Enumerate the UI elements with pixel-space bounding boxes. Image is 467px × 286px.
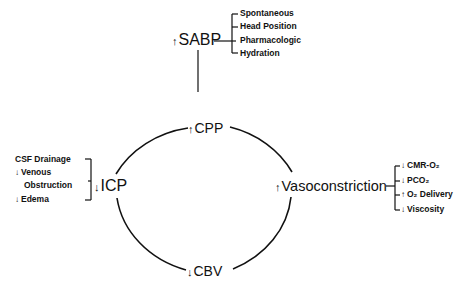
node-cpp: ↑CPP — [188, 121, 223, 135]
vaso-factor-label: CMR-O₂ — [407, 160, 440, 170]
sabp-factor: Pharmacologic — [240, 36, 301, 45]
icp-factor: Obstruction — [24, 181, 72, 190]
icp-label: ICP — [101, 177, 128, 194]
vaso-factor: ↓PCO₂ — [401, 176, 429, 185]
vaso-factor: ↑O₂ Delivery — [401, 190, 453, 199]
down-arrow-icon: ↓ — [94, 182, 100, 193]
vaso-factor-label: PCO₂ — [407, 175, 429, 185]
icp-factor-label: Venous — [21, 167, 51, 177]
node-vasoconstriction: ↑Vasoconstriction — [275, 179, 387, 194]
sabp-label: SABP — [179, 31, 222, 48]
up-arrow-icon: ↑ — [188, 124, 194, 135]
up-arrow-icon: ↑ — [172, 36, 178, 47]
cycle-diagram-lines — [0, 0, 467, 286]
cpp-label: CPP — [195, 120, 224, 136]
node-sabp: ↑SABP — [172, 32, 221, 48]
vaso-factor: ↓CMR-O₂ — [401, 161, 440, 170]
arc-icp-to-cpp — [116, 128, 188, 174]
down-arrow-icon: ↓ — [401, 205, 405, 214]
vaso-factor-label: O₂ Delivery — [407, 189, 453, 199]
sabp-factor: Head Position — [240, 22, 297, 31]
cbv-label: CBV — [194, 263, 223, 279]
vaso-factor: ↓Viscosity — [401, 205, 444, 214]
down-arrow-icon: ↓ — [401, 176, 405, 185]
icp-factor: ↓Venous — [15, 168, 51, 177]
icp-factor-label: CSF Drainage — [15, 154, 71, 164]
icp-factor: ↓Edema — [15, 195, 49, 204]
up-arrow-icon: ↑ — [275, 182, 281, 193]
down-arrow-icon: ↓ — [15, 168, 19, 177]
down-arrow-icon: ↓ — [401, 161, 405, 170]
icp-factor: CSF Drainage — [15, 155, 71, 164]
down-arrow-icon: ↓ — [15, 195, 19, 204]
up-arrow-icon: ↑ — [401, 190, 405, 199]
node-icp: ↓ICP — [94, 178, 127, 194]
arc-cpp-to-vaso — [230, 127, 292, 172]
arc-vaso-to-cbv — [233, 197, 291, 269]
node-cbv: ↓CBV — [187, 264, 222, 278]
down-arrow-icon: ↓ — [187, 267, 193, 278]
vaso-factor-label: Viscosity — [407, 204, 444, 214]
sabp-factor: Spontaneous — [240, 9, 294, 18]
sabp-factor: Hydration — [240, 49, 280, 58]
icp-factor-label: Obstruction — [24, 180, 72, 190]
vasoconstriction-label: Vasoconstriction — [282, 178, 387, 194]
icp-factor-label: Edema — [21, 194, 49, 204]
arc-cbv-to-icp — [117, 198, 186, 270]
